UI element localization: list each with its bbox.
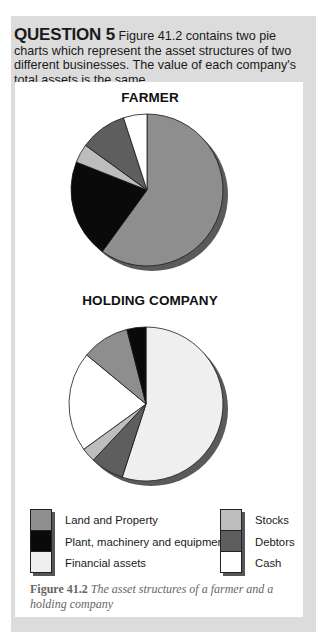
legend-swatch-plant — [30, 530, 52, 552]
legend-swatch-stocks — [220, 509, 242, 531]
legend-label-financial-assets: Financial assets — [65, 557, 146, 569]
legend-label-land-and-property: Land and Property — [65, 514, 158, 526]
figure-label: Figure 41.2 — [30, 582, 88, 596]
legend-swatch-debtors — [220, 530, 242, 552]
legend-swatch-land-and-property — [30, 509, 52, 531]
legend-swatch-financial-assets — [30, 551, 52, 573]
legend-swatch-cash — [220, 551, 242, 573]
figure-caption: Figure 41.2 The asset structures of a fa… — [30, 582, 290, 611]
legend-label-plant: Plant, machinery and equipment — [65, 536, 227, 548]
legend-label-stocks: Stocks — [255, 514, 289, 526]
legend-label-cash: Cash — [255, 557, 281, 569]
legend-label-debtors: Debtors — [255, 536, 295, 548]
